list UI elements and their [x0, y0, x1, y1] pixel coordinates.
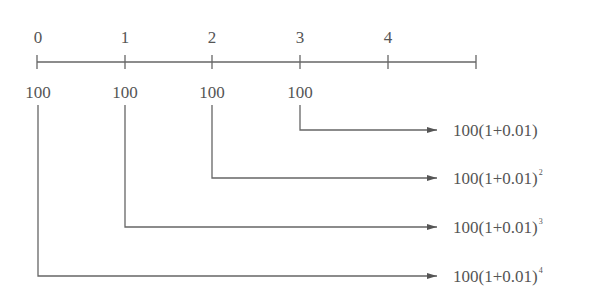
tick-label-2: 2	[208, 29, 217, 46]
formula-period-0: 100(1+0.01)4	[453, 267, 543, 285]
formula-period-2: 100(1+0.01)2	[453, 169, 543, 187]
connector-period-1	[125, 105, 437, 227]
deposit-label-1: 100	[112, 84, 138, 101]
tick-label-4: 4	[384, 29, 393, 46]
tick-label-3: 3	[296, 29, 305, 46]
connector-period-3	[300, 105, 437, 130]
deposit-label-3: 100	[287, 84, 313, 101]
tick-label-0: 0	[34, 29, 43, 46]
formula-period-3: 100(1+0.01)	[453, 121, 539, 139]
deposit-label-0: 100	[25, 84, 51, 101]
connector-period-2	[212, 105, 437, 178]
tick-label-1: 1	[121, 29, 130, 46]
deposit-label-2: 100	[199, 84, 225, 101]
formula-period-1: 100(1+0.01)3	[453, 218, 543, 236]
